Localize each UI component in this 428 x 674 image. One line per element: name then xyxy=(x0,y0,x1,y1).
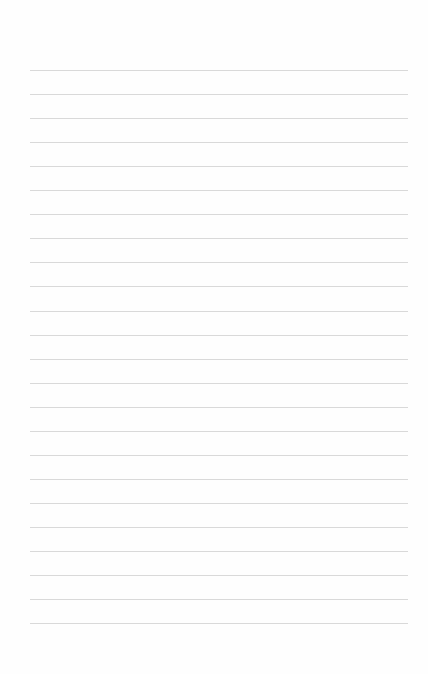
ruled-line xyxy=(30,575,408,576)
ruled-line xyxy=(30,383,408,384)
ruled-line xyxy=(30,407,408,408)
ruled-line xyxy=(30,503,408,504)
ruled-line xyxy=(30,94,408,95)
ruled-line xyxy=(30,70,408,71)
ruled-line xyxy=(30,359,408,360)
ruled-line xyxy=(30,527,408,528)
ruled-line xyxy=(30,551,408,552)
ruled-line xyxy=(30,166,408,167)
ruled-line xyxy=(30,286,408,287)
ruled-line xyxy=(30,214,408,215)
ruled-line xyxy=(30,623,408,624)
ruled-line xyxy=(30,118,408,119)
ruled-line xyxy=(30,599,408,600)
ruled-line xyxy=(30,455,408,456)
ruled-line xyxy=(30,190,408,191)
ruled-line xyxy=(30,142,408,143)
ruled-page xyxy=(0,0,428,674)
ruled-line xyxy=(30,311,408,312)
ruled-line xyxy=(30,262,408,263)
ruled-line xyxy=(30,238,408,239)
ruled-line xyxy=(30,431,408,432)
ruled-line xyxy=(30,335,408,336)
ruled-line xyxy=(30,479,408,480)
